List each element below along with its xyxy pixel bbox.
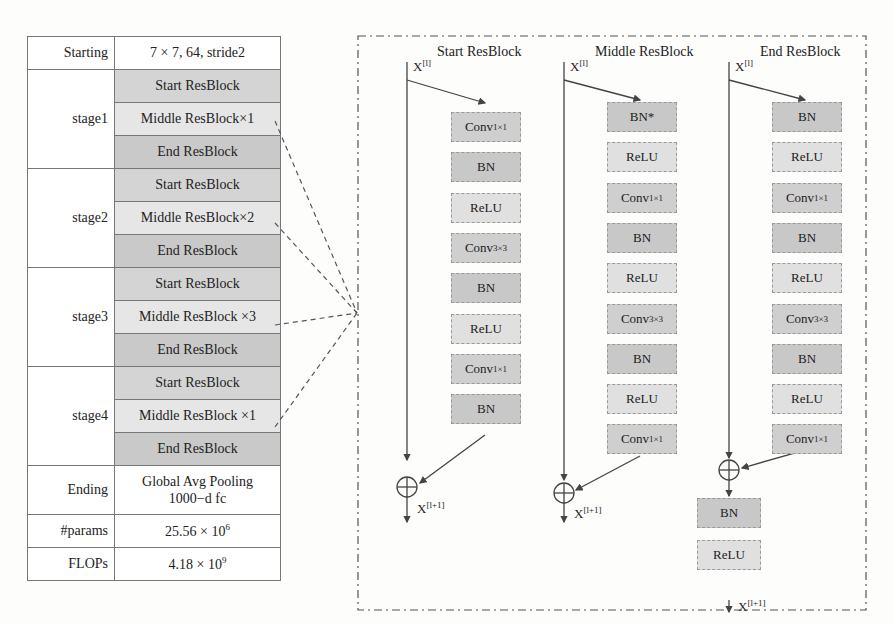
end-layer-relu: ReLU [772, 384, 842, 414]
start-layer-conv: Conv3×3 [451, 233, 521, 263]
start-layer-bn: BN [451, 273, 521, 303]
end-layer-relu: ReLU [772, 263, 842, 293]
start-layer-conv: Conv1×1 [451, 354, 521, 384]
middle-layer-conv: Conv1×1 [607, 424, 677, 454]
end-post-layer-relu: ReLU [697, 540, 761, 570]
end-layer-conv: Conv3×3 [772, 304, 842, 334]
end-layer-relu: ReLU [772, 142, 842, 172]
middle-layer-bn-star: BN* [607, 102, 677, 132]
start-layer-relu: ReLU [451, 193, 521, 223]
end-layer-bn: BN [772, 102, 842, 132]
middle-layer-conv: Conv1×1 [607, 183, 677, 213]
end-output-label: X[l+1] [738, 598, 765, 615]
start-layer-bn: BN [451, 394, 521, 424]
start-output-label: X[l+1] [417, 500, 444, 517]
end-layer-conv: Conv1×1 [772, 183, 842, 213]
end-layer-conv: Conv1×1 [772, 424, 842, 454]
middle-input-label: X[l] [570, 58, 588, 75]
start-block-title: Start ResBlock [437, 44, 521, 60]
start-input-label: X[l] [413, 58, 431, 75]
middle-block-title: Middle ResBlock [595, 44, 693, 60]
connector-lines [0, 0, 894, 623]
end-layer-bn: BN [772, 223, 842, 253]
middle-layer-relu: ReLU [607, 142, 677, 172]
middle-layer-bn: BN [607, 344, 677, 374]
middle-layer-conv: Conv3×3 [607, 304, 677, 334]
middle-output-label: X[l+1] [574, 505, 601, 522]
start-layer-relu: ReLU [451, 314, 521, 344]
middle-layer-bn: BN [607, 223, 677, 253]
middle-layer-relu: ReLU [607, 384, 677, 414]
end-block-title: End ResBlock [760, 44, 841, 60]
end-layer-bn: BN [772, 344, 842, 374]
start-layer-conv: Conv1×1 [451, 112, 521, 142]
end-post-layer-bn: BN [697, 498, 761, 528]
end-input-label: X[l] [735, 58, 753, 75]
resnet-architecture-figure: Starting 7 × 7, 64, stride2 stage1 Start… [0, 0, 894, 623]
middle-layer-relu: ReLU [607, 263, 677, 293]
start-layer-bn: BN [451, 152, 521, 182]
